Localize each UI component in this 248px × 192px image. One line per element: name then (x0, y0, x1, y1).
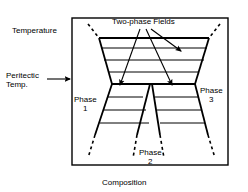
x-axis-label: Composition (102, 178, 146, 187)
region-label-phase-3-line2: 3 (200, 95, 223, 104)
region-label-phase-1: Phase 1 (74, 95, 97, 113)
two-phase-fields-label: Two-phase Fields (112, 17, 175, 26)
region-label-phase-2-line2: 2 (139, 157, 162, 166)
peritectic-temp-label-line1: Peritectic (6, 71, 39, 80)
figure-root: Temperature Peritectic Temp. Two-phase F… (0, 0, 248, 192)
peritectic-temp-label-line2: Temp. (6, 80, 39, 89)
region-label-phase-3-line1: Phase (200, 86, 223, 95)
y-axis-label: Temperature (12, 26, 57, 35)
region-label-phase-1-line2: 1 (74, 104, 97, 113)
region-label-phase-1-line1: Phase (74, 95, 97, 104)
peritectic-temp-label: Peritectic Temp. (6, 71, 39, 89)
region-label-phase-2-line1: Phase (139, 148, 162, 157)
region-label-phase-2: Phase 2 (139, 148, 162, 166)
region-label-phase-3: Phase 3 (200, 86, 223, 104)
